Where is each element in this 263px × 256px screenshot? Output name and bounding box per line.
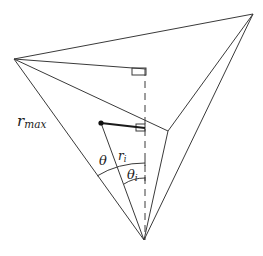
label-theta-i: θi xyxy=(127,168,138,183)
edge-left-topright xyxy=(14,14,253,59)
diagram-canvas: rmax ri θ θi xyxy=(0,0,263,256)
label-r-i: ri xyxy=(118,150,126,163)
label-r-max: rmax xyxy=(17,114,46,130)
edge-inner-apex xyxy=(144,131,168,240)
perpendicular-top xyxy=(14,59,146,69)
point-marker xyxy=(98,120,103,125)
edge-topright-inner xyxy=(168,14,253,131)
label-theta: θ xyxy=(99,154,107,167)
